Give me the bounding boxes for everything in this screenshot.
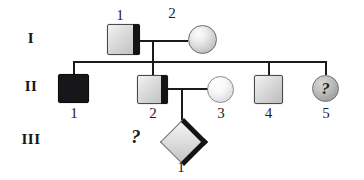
individual-number-iii-1: 1 <box>167 160 195 175</box>
individual-number-ii-4: 4 <box>254 106 283 121</box>
individual-symbol-i-2[interactable] <box>188 25 217 54</box>
mating-line-i1-i2 <box>140 40 188 42</box>
individual-symbol-ii-5[interactable]: ? <box>312 75 339 102</box>
individual-symbol-i-1[interactable] <box>107 24 140 55</box>
individual-number-ii-5: 5 <box>312 106 340 121</box>
individual-symbol-ii-4[interactable] <box>254 75 283 104</box>
generation-label-i: I <box>14 30 48 47</box>
individual-number-ii-2: 2 <box>138 106 168 121</box>
drop-line-ii-2 <box>152 61 154 75</box>
generation-label-iii: III <box>10 131 52 148</box>
individual-symbol-ii-1[interactable] <box>58 74 89 103</box>
individual-number-ii-3: 3 <box>207 106 235 121</box>
unknown-genotype-icon-ii-5: ? <box>313 76 338 101</box>
generation-label-ii: II <box>14 78 48 95</box>
individual-symbol-ii-3[interactable] <box>207 76 234 103</box>
individual-symbol-ii-2[interactable] <box>137 75 168 104</box>
drop-line-ii-1 <box>73 61 75 75</box>
individual-number-i-2: 2 <box>157 6 187 21</box>
drop-line-ii-5 <box>325 61 327 75</box>
individual-number-ii-1: 1 <box>59 106 89 121</box>
descent-line-to-iii-1 <box>181 88 183 120</box>
unknown-genotype-marker-iii-1: ? <box>131 127 141 146</box>
mating-line-ii2-ii3 <box>168 88 208 90</box>
pedigree-chart: I II III 1 2 1 2 3 4 ? 5 ? 1 <box>0 0 364 180</box>
drop-line-ii-4 <box>268 61 270 75</box>
sibship-line-generation-ii <box>73 61 326 63</box>
individual-number-i-1: 1 <box>105 8 135 23</box>
descent-line-generation-i <box>152 40 154 62</box>
